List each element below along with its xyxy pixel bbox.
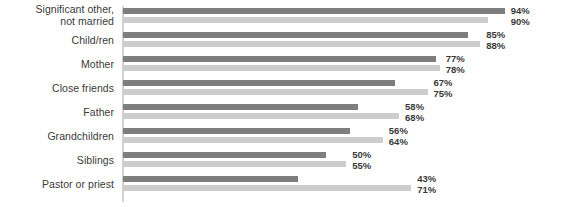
value-label-series-b: 68%: [405, 113, 424, 124]
bar-series-b: [123, 89, 428, 95]
category-label: Pastor or priest: [2, 179, 114, 191]
chart-row: Grandchildren56%64%: [0, 128, 567, 152]
category-label: Mother: [2, 59, 114, 71]
value-label-series-b: 88%: [486, 41, 505, 52]
chart-row: Siblings50%55%: [0, 152, 567, 176]
bar-pair: [123, 80, 428, 95]
bar-series-b: [123, 17, 488, 23]
chart-row: Child/ren85%88%: [0, 32, 567, 56]
value-label-series-a: 85%: [486, 30, 505, 41]
value-label-series-b: 55%: [352, 161, 371, 172]
value-label-pair: 50%55%: [352, 150, 371, 171]
bar-series-a: [123, 8, 505, 14]
chart-rows: Significant other, not married94%90%Chil…: [0, 8, 567, 200]
bar-series-b: [123, 65, 440, 71]
bar-series-a: [123, 128, 350, 134]
bar-series-b: [123, 137, 383, 143]
category-label: Father: [2, 107, 114, 119]
chart-row: Pastor or priest43%71%: [0, 176, 567, 200]
category-label: Grandchildren: [2, 131, 114, 143]
bar-series-b: [123, 185, 411, 191]
value-label-pair: 94%90%: [511, 6, 530, 27]
value-label-series-b: 90%: [511, 17, 530, 28]
value-label-series-b: 71%: [417, 185, 436, 196]
category-label: Siblings: [2, 155, 114, 167]
category-label: Child/ren: [2, 35, 114, 47]
bar-series-b: [123, 41, 480, 47]
value-label-series-a: 50%: [352, 150, 371, 161]
value-label-series-a: 58%: [405, 102, 424, 113]
chart-row: Significant other, not married94%90%: [0, 8, 567, 32]
value-label-pair: 43%71%: [417, 174, 436, 195]
category-label: Close friends: [2, 83, 114, 95]
bar-pair: [123, 56, 440, 71]
bar-pair: [123, 152, 346, 167]
value-label-series-a: 56%: [389, 126, 408, 137]
value-label-series-b: 78%: [446, 65, 465, 76]
bar-series-b: [123, 161, 346, 167]
chart-row: Mother77%78%: [0, 56, 567, 80]
value-label-pair: 85%88%: [486, 30, 505, 51]
value-label-series-b: 64%: [389, 137, 408, 148]
bar-pair: [123, 8, 505, 23]
bar-series-a: [123, 152, 326, 158]
horizontal-bar-chart: Significant other, not married94%90%Chil…: [0, 0, 567, 207]
value-label-pair: 67%75%: [434, 78, 453, 99]
category-label: Significant other, not married: [2, 4, 114, 27]
bar-series-a: [123, 32, 468, 38]
value-label-pair: 77%78%: [446, 54, 465, 75]
bar-series-a: [123, 104, 358, 110]
bar-series-b: [123, 113, 399, 119]
chart-row: Father58%68%: [0, 104, 567, 128]
value-label-series-a: 43%: [417, 174, 436, 185]
bar-series-a: [123, 176, 298, 182]
bar-pair: [123, 32, 480, 47]
plot-area: Significant other, not married94%90%Chil…: [0, 0, 567, 207]
chart-row: Close friends67%75%: [0, 80, 567, 104]
value-label-series-a: 77%: [446, 54, 465, 65]
bar-series-a: [123, 56, 436, 62]
bar-series-a: [123, 80, 395, 86]
value-label-pair: 58%68%: [405, 102, 424, 123]
value-label-series-a: 67%: [434, 78, 453, 89]
bar-pair: [123, 176, 411, 191]
bar-pair: [123, 104, 399, 119]
value-label-pair: 56%64%: [389, 126, 408, 147]
value-label-series-b: 75%: [434, 89, 453, 100]
value-label-series-a: 94%: [511, 6, 530, 17]
bar-pair: [123, 128, 383, 143]
